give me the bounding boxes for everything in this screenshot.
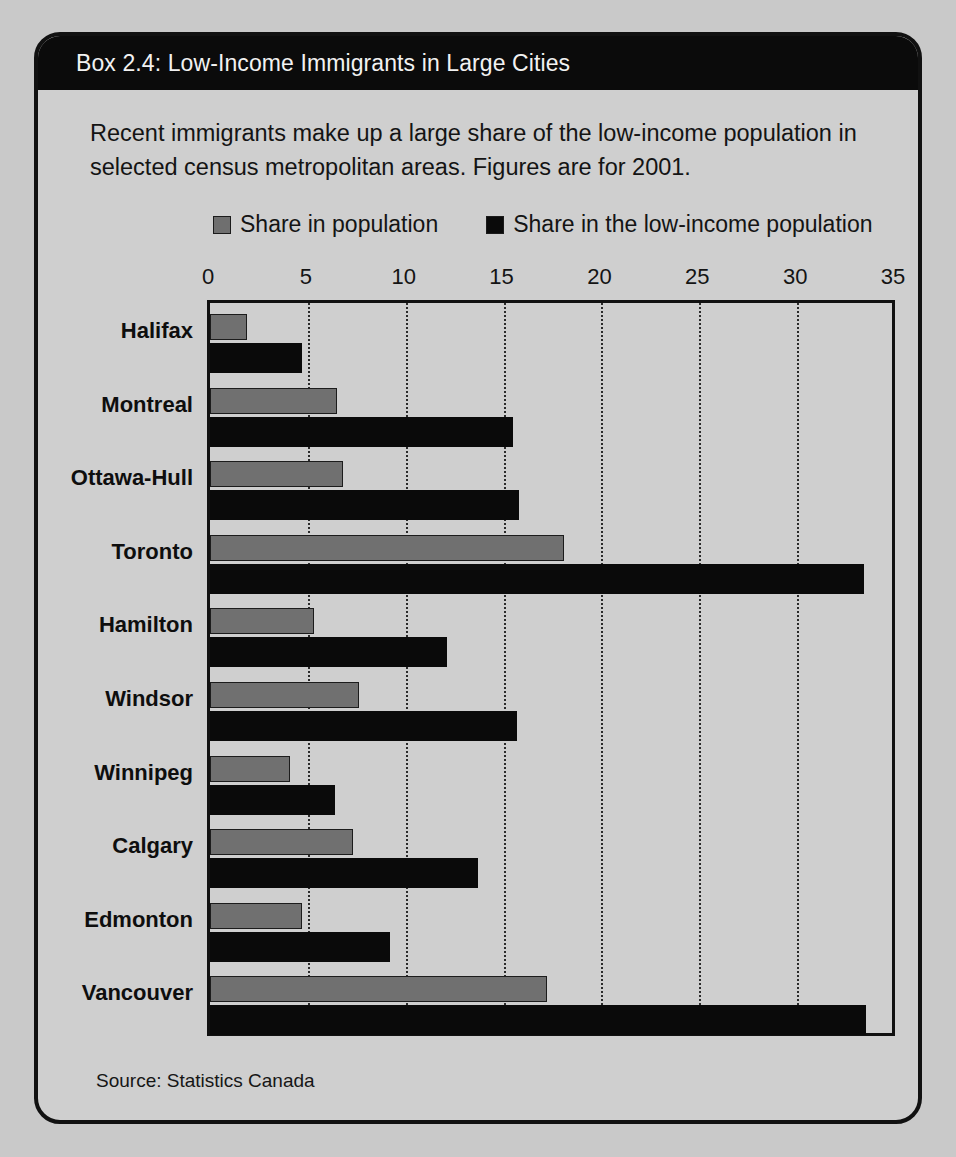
legend-swatch-icon-low-income	[486, 216, 504, 234]
y-axis-label-calgary: Calgary	[34, 833, 193, 859]
bar-chart: 05101520253035 HalifaxMontrealOttawa-Hul…	[38, 264, 918, 1054]
x-tick-label: 30	[783, 264, 807, 290]
bar-share-in-low-income-population	[210, 490, 519, 520]
legend-item-share-in-population: Share in population	[213, 211, 438, 238]
gridline	[797, 303, 799, 1033]
bar-share-in-low-income-population	[210, 343, 302, 373]
y-axis-label-toronto: Toronto	[34, 539, 193, 565]
chart-legend: Share in population Share in the low-inc…	[90, 211, 890, 238]
bar-share-in-low-income-population	[210, 785, 335, 815]
bar-share-in-low-income-population	[210, 858, 478, 888]
box-intro-text: Recent immigrants make up a large share …	[90, 116, 880, 184]
bar-share-in-population	[210, 756, 290, 782]
y-axis-label-winnipeg: Winnipeg	[34, 760, 193, 786]
box-title-bar: Box 2.4: Low-Income Immigrants in Large …	[38, 36, 918, 90]
plot-area	[207, 300, 895, 1036]
legend-label-population: Share in population	[240, 211, 438, 238]
bar-share-in-low-income-population	[210, 637, 447, 667]
y-axis-label-ottawa-hull: Ottawa-Hull	[34, 465, 193, 491]
page-background: Box 2.4: Low-Income Immigrants in Large …	[0, 0, 956, 1157]
y-axis-label-hamilton: Hamilton	[34, 612, 193, 638]
y-axis-label-windsor: Windsor	[34, 686, 193, 712]
bar-share-in-population	[210, 608, 314, 634]
gridline	[406, 303, 408, 1033]
y-axis-label-montreal: Montreal	[34, 392, 193, 418]
x-tick-label: 20	[587, 264, 611, 290]
y-axis-category-labels: HalifaxMontrealOttawa-HullTorontoHamilto…	[38, 300, 193, 1036]
x-axis-tick-labels: 05101520253035	[38, 264, 918, 298]
bar-share-in-low-income-population	[210, 1005, 866, 1035]
y-axis-label-vancouver: Vancouver	[34, 980, 193, 1006]
bar-share-in-low-income-population	[210, 932, 390, 962]
gridline	[699, 303, 701, 1033]
chart-source: Source: Statistics Canada	[96, 1070, 315, 1092]
x-tick-label: 35	[881, 264, 905, 290]
x-tick-label: 5	[300, 264, 312, 290]
gridline	[504, 303, 506, 1033]
x-tick-label: 15	[489, 264, 513, 290]
bar-share-in-population	[210, 461, 343, 487]
x-tick-label: 10	[391, 264, 415, 290]
bar-share-in-population	[210, 903, 302, 929]
bar-share-in-population	[210, 535, 564, 561]
bar-share-in-population	[210, 829, 353, 855]
gridline	[601, 303, 603, 1033]
box-title: Box 2.4: Low-Income Immigrants in Large …	[38, 50, 570, 77]
bar-share-in-low-income-population	[210, 417, 513, 447]
legend-label-low-income: Share in the low-income population	[513, 211, 872, 238]
y-axis-label-halifax: Halifax	[34, 318, 193, 344]
legend-item-share-in-low-income-population: Share in the low-income population	[486, 211, 872, 238]
y-axis-label-edmonton: Edmonton	[34, 907, 193, 933]
bar-share-in-population	[210, 388, 337, 414]
bar-share-in-low-income-population	[210, 564, 864, 594]
bar-share-in-population	[210, 976, 547, 1002]
info-box: Box 2.4: Low-Income Immigrants in Large …	[34, 32, 922, 1124]
bar-share-in-low-income-population	[210, 711, 517, 741]
legend-swatch-icon-population	[213, 216, 231, 234]
x-tick-label: 0	[202, 264, 214, 290]
bar-share-in-population	[210, 314, 247, 340]
x-tick-label: 25	[685, 264, 709, 290]
bar-share-in-population	[210, 682, 359, 708]
